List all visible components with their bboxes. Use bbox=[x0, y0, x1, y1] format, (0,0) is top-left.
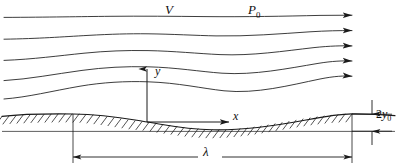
wavelength-dimension bbox=[73, 114, 352, 163]
streamline-2 bbox=[4, 31, 352, 40]
figure-canvas bbox=[0, 0, 397, 167]
streamline-4 bbox=[4, 61, 352, 81]
wavy-wall-flow-figure: V P0 y x λ 2y0 bbox=[0, 0, 397, 167]
wall-hatching bbox=[0, 114, 352, 138]
streamline-1 bbox=[4, 15, 352, 17]
pressure-subscript: 0 bbox=[256, 10, 260, 20]
freestream-velocity-label: V bbox=[165, 3, 173, 16]
freestream-pressure-label: P0 bbox=[248, 3, 260, 19]
pressure-symbol: P bbox=[248, 2, 256, 17]
streamline-5 bbox=[4, 76, 352, 99]
streamline-3 bbox=[4, 46, 352, 61]
y-axis-label: y bbox=[155, 65, 160, 77]
amplitude-subscript: 0 bbox=[387, 114, 391, 123]
wavy-wall bbox=[0, 114, 395, 138]
wavelength-label: λ bbox=[203, 145, 209, 158]
x-axis-label: x bbox=[233, 110, 238, 122]
amplitude-label: 2y0 bbox=[376, 108, 391, 124]
streamline-group bbox=[4, 15, 352, 99]
